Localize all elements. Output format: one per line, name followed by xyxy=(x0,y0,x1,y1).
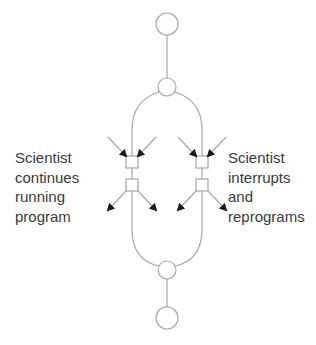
right-input-square xyxy=(196,156,208,168)
left-input-arrow-left xyxy=(108,137,126,156)
right-output-square xyxy=(196,179,208,191)
left-branch-label: Scientist continues running program xyxy=(15,148,79,226)
left-label-line: continues xyxy=(15,168,79,188)
left-output-arrow-left xyxy=(108,191,126,210)
right-branch-label: Scientist interrupts and reprograms xyxy=(228,148,305,226)
left-input-arrow-right xyxy=(138,137,156,156)
right-label-line: reprograms xyxy=(228,207,305,227)
right-output-arrow-right xyxy=(208,191,226,210)
end-node xyxy=(156,307,178,329)
right-input-arrow-left xyxy=(178,137,196,156)
right-label-line: interrupts xyxy=(228,168,305,188)
branching-flow-diagram: Scientist continues running program Scie… xyxy=(0,0,316,345)
left-input-square xyxy=(126,156,138,168)
left-label-line: Scientist xyxy=(15,148,79,168)
right-label-line: Scientist xyxy=(228,148,305,168)
left-label-line: program xyxy=(15,207,79,227)
right-output-arrow-left xyxy=(178,191,196,210)
left-label-line: running xyxy=(15,187,79,207)
right-input-arrow-right xyxy=(208,137,226,156)
merge-node xyxy=(158,261,176,279)
split-node xyxy=(158,78,176,96)
left-output-arrow-right xyxy=(138,191,156,210)
left-output-square xyxy=(126,179,138,191)
right-label-line: and xyxy=(228,187,305,207)
start-node xyxy=(156,13,178,35)
